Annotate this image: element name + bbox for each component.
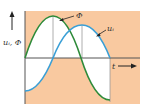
- y-axis-arrow-icon: [10, 11, 15, 17]
- phase-diagram: uᵢ, Φ t Φ uᵢ: [0, 0, 144, 110]
- y-axis-label: uᵢ, Φ: [3, 38, 22, 47]
- ui-label: uᵢ: [107, 24, 114, 33]
- phi-label: Φ: [76, 11, 83, 20]
